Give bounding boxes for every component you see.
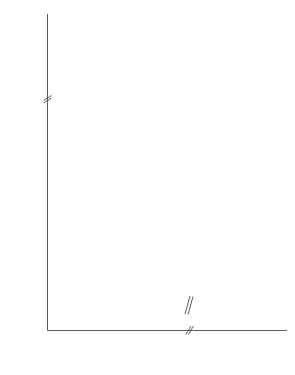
y-axis xyxy=(44,14,52,331)
chart-figure xyxy=(0,0,295,375)
chart-svg xyxy=(0,0,295,375)
x-axis xyxy=(48,296,288,335)
